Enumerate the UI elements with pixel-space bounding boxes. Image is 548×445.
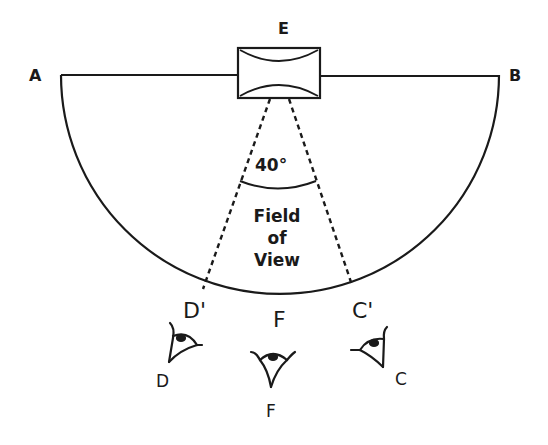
label-c: C — [395, 369, 407, 389]
label-f-lower: F — [266, 401, 276, 421]
angle-arc — [240, 181, 316, 189]
fov-word-3: View — [237, 249, 317, 271]
label-f-upper: F — [273, 307, 286, 332]
label-d: D — [156, 371, 169, 391]
eye-icon-f — [251, 352, 295, 387]
eye-icon-c — [351, 327, 387, 367]
camera-icon — [238, 48, 320, 98]
label-c-prime: C' — [352, 298, 373, 323]
label-d-prime: D' — [183, 298, 206, 323]
fov-word-2: of — [237, 227, 317, 249]
eye-icon-d — [169, 323, 202, 362]
field-of-view-diagram: A B E 40° Field of View D' F C' D F C — [0, 0, 548, 445]
label-e: E — [278, 19, 289, 38]
field-of-view-label: Field of View — [237, 205, 317, 271]
label-a: A — [29, 66, 41, 85]
angle-label: 40° — [255, 155, 287, 175]
fov-word-1: Field — [237, 205, 317, 227]
label-b: B — [509, 66, 521, 85]
